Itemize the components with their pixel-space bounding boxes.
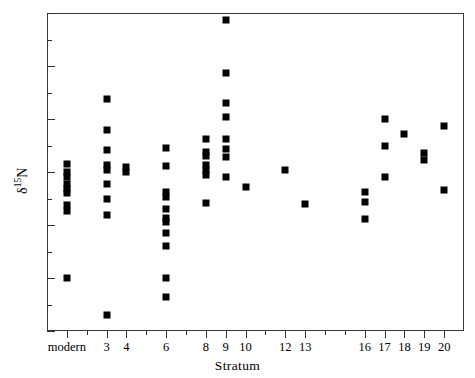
data-point <box>103 180 110 187</box>
data-point <box>103 312 110 319</box>
data-point <box>202 199 209 206</box>
y-axis-minor-tick <box>47 252 52 253</box>
y-axis-tick <box>47 225 55 226</box>
data-point <box>63 190 70 197</box>
x-axis-tick <box>404 331 405 338</box>
x-axis-tick <box>424 331 425 338</box>
data-point <box>361 198 368 205</box>
x-axis-tick <box>206 331 207 338</box>
data-point <box>242 183 249 190</box>
y-axis-title: δ15N <box>13 141 31 221</box>
data-point <box>163 293 170 300</box>
data-point <box>222 113 229 120</box>
data-point <box>222 174 229 181</box>
data-point <box>163 144 170 151</box>
data-point <box>123 169 130 176</box>
data-point <box>421 157 428 164</box>
x-axis-tick <box>107 331 108 338</box>
data-point <box>103 126 110 133</box>
data-point <box>103 195 110 202</box>
x-axis-tick-label: 6 <box>163 340 169 355</box>
data-point <box>222 100 229 107</box>
x-axis-tick <box>166 331 167 338</box>
x-axis-tick-label: 20 <box>438 340 451 355</box>
x-axis-tick <box>305 331 306 338</box>
data-point <box>163 206 170 213</box>
data-point <box>381 116 388 123</box>
data-point <box>103 212 110 219</box>
y-axis-tick <box>47 13 55 14</box>
data-point <box>202 153 209 160</box>
x-axis-minor-tick <box>186 331 187 335</box>
x-axis-minor-tick <box>325 331 326 335</box>
y-axis-minor-tick <box>47 146 52 147</box>
x-axis-tick-label: 13 <box>299 340 312 355</box>
data-point <box>163 162 170 169</box>
data-point <box>282 167 289 174</box>
x-axis-tick <box>126 331 127 338</box>
data-point <box>401 130 408 137</box>
data-point <box>163 194 170 201</box>
y-axis-title-superscript: 15 <box>13 178 23 188</box>
x-axis-tick <box>385 331 386 338</box>
data-point <box>163 243 170 250</box>
y-axis-minor-tick <box>47 199 52 200</box>
data-point <box>361 189 368 196</box>
data-point <box>381 174 388 181</box>
x-axis-minor-tick <box>345 331 346 335</box>
x-axis-tick <box>285 331 286 338</box>
y-axis-tick <box>47 66 55 67</box>
y-axis-tick <box>47 278 55 279</box>
data-point <box>163 230 170 237</box>
x-axis-tick-label: 4 <box>123 340 129 355</box>
y-axis-title-delta: δ <box>15 187 30 194</box>
x-axis-minor-tick <box>87 331 88 335</box>
x-axis-tick-label: 16 <box>358 340 371 355</box>
data-point <box>202 136 209 143</box>
x-axis-tick-label: 19 <box>418 340 431 355</box>
scatter-plot-figure: −2−101234 modern346891012131617181920 δ1… <box>0 0 475 378</box>
data-point <box>63 208 70 215</box>
data-point <box>163 218 170 225</box>
y-axis-tick <box>47 172 55 173</box>
x-axis-minor-tick <box>146 331 147 335</box>
data-point <box>103 166 110 173</box>
x-axis-tick-label: modern <box>48 340 86 355</box>
x-axis-tick <box>365 331 366 338</box>
data-point <box>222 70 229 77</box>
data-point <box>202 172 209 179</box>
data-point <box>441 123 448 130</box>
data-point <box>361 215 368 222</box>
data-point <box>63 161 70 168</box>
x-axis-tick-label: 3 <box>103 340 109 355</box>
x-axis-tick-label: 12 <box>279 340 292 355</box>
data-point <box>222 154 229 161</box>
x-axis-tick-label: 9 <box>223 340 229 355</box>
y-axis-minor-tick <box>47 305 52 306</box>
x-axis-tick-label: 18 <box>398 340 411 355</box>
data-point <box>421 149 428 156</box>
y-axis-title-element: N <box>15 168 30 178</box>
x-axis-minor-tick <box>265 331 266 335</box>
x-axis-tick-label: 17 <box>378 340 391 355</box>
data-point <box>103 146 110 153</box>
x-axis-tick <box>226 331 227 338</box>
x-axis-tick <box>246 331 247 338</box>
x-axis-title: Stratum <box>0 358 475 374</box>
x-axis-tick-label: 10 <box>239 340 252 355</box>
x-axis-tick <box>67 331 68 338</box>
data-point <box>441 187 448 194</box>
y-axis-tick <box>47 331 55 332</box>
data-point <box>222 136 229 143</box>
data-point <box>103 95 110 102</box>
x-axis-tick <box>444 331 445 338</box>
y-axis-minor-tick <box>47 93 52 94</box>
data-point <box>163 275 170 282</box>
data-point <box>381 142 388 149</box>
data-point <box>63 275 70 282</box>
data-point <box>222 145 229 152</box>
y-axis-minor-tick <box>47 40 52 41</box>
y-axis-tick <box>47 119 55 120</box>
x-axis-tick-label: 8 <box>203 340 209 355</box>
data-point <box>302 200 309 207</box>
